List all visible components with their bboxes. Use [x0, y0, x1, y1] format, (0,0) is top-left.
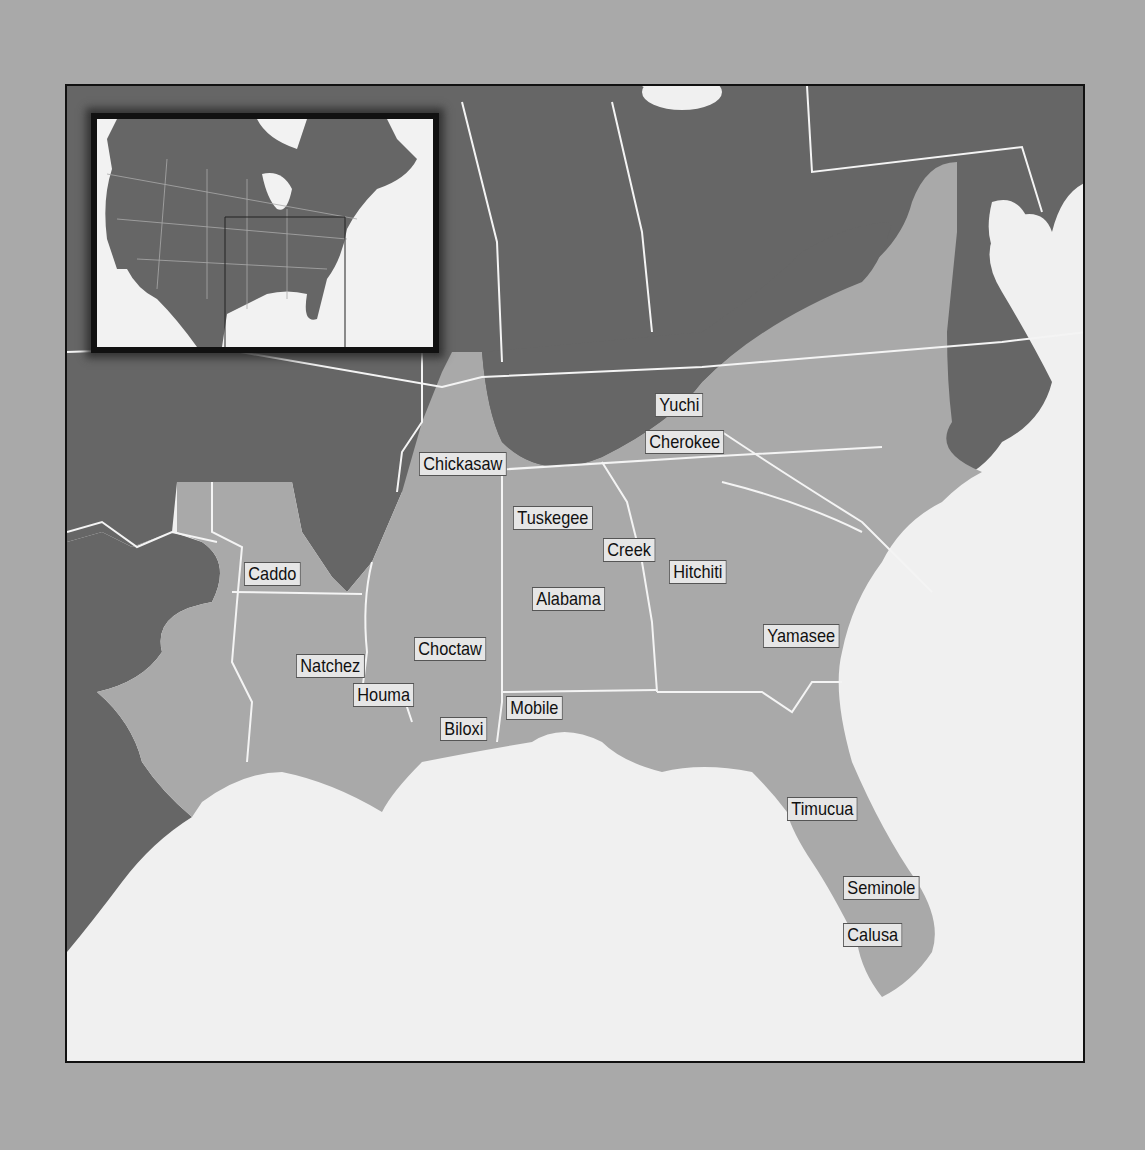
- label-hitchiti: Hitchiti: [669, 560, 727, 584]
- label-calusa: Calusa: [843, 923, 902, 947]
- label-chickasaw: Chickasaw: [419, 452, 507, 476]
- label-alabama: Alabama: [532, 587, 605, 611]
- label-houma: Houma: [353, 683, 414, 707]
- label-cherokee: Cherokee: [645, 430, 724, 454]
- label-mobile: Mobile: [506, 696, 563, 720]
- label-yamasee: Yamasee: [763, 624, 839, 648]
- label-timucua: Timucua: [787, 797, 858, 821]
- label-creek: Creek: [603, 538, 655, 562]
- label-biloxi: Biloxi: [440, 717, 488, 741]
- locator-inset-map: [91, 113, 439, 353]
- label-tuskegee: Tuskegee: [513, 506, 593, 530]
- map-frame: [65, 84, 1085, 1063]
- label-yuchi: Yuchi: [655, 393, 704, 417]
- label-seminole: Seminole: [843, 876, 920, 900]
- locator-map-svg: [97, 119, 433, 347]
- label-caddo: Caddo: [244, 562, 301, 586]
- label-natchez: Natchez: [296, 654, 365, 678]
- label-choctaw: Choctaw: [414, 637, 486, 661]
